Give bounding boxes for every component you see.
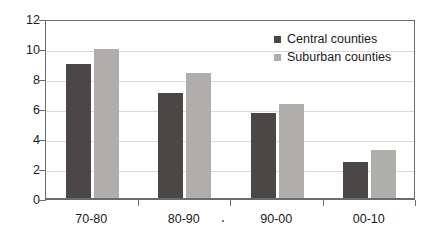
- y-axis-tick-mark: [39, 200, 46, 201]
- bar-central-00-10: [343, 162, 368, 200]
- x-axis-tick-label-80-90: 80-90: [138, 212, 231, 226]
- legend-item-central: Central counties: [274, 30, 391, 48]
- bar-central-80-90: [158, 93, 183, 199]
- y-axis-tick-mark: [39, 170, 46, 171]
- y-axis-tick-label: 4: [14, 134, 40, 146]
- bar-suburban-70-80: [94, 49, 119, 199]
- scan-artifact-dot: [222, 220, 224, 222]
- y-axis-tick-label: 8: [14, 74, 40, 86]
- x-axis-tick-mark: [323, 200, 324, 206]
- x-axis-tick-label-70-80: 70-80: [45, 212, 138, 226]
- y-axis-tick-mark: [39, 80, 46, 81]
- bar-suburban-90-00: [279, 104, 304, 199]
- y-axis: 024681012: [0, 0, 40, 239]
- y-axis-tick-label: 10: [14, 44, 40, 56]
- x-axis-tick-mark: [415, 200, 416, 206]
- bar-suburban-80-90: [186, 73, 211, 199]
- legend-label-suburban: Suburban counties: [287, 51, 391, 64]
- y-axis-tick-mark: [39, 20, 46, 21]
- bar-central-90-00: [251, 113, 276, 199]
- bar-suburban-00-10: [371, 150, 396, 199]
- y-axis-tick-label: 2: [14, 164, 40, 176]
- x-axis-tick-mark: [138, 200, 139, 206]
- legend-swatch-suburban-icon: [274, 54, 281, 61]
- chart-legend: Central counties Suburban counties: [274, 30, 391, 66]
- x-axis-baseline: [46, 198, 414, 199]
- y-axis-tick-label: 12: [14, 14, 40, 26]
- y-axis-tick-mark: [39, 50, 46, 51]
- x-axis-tick-label-00-10: 00-10: [323, 212, 416, 226]
- bar-central-70-80: [66, 64, 91, 199]
- x-axis-tick-label-90-00: 90-00: [230, 212, 323, 226]
- legend-swatch-central-icon: [274, 36, 281, 43]
- x-axis-tick-mark: [230, 200, 231, 206]
- legend-item-suburban: Suburban counties: [274, 48, 391, 66]
- bar-chart: 024681012 70-8080-9090-0000-10 Central c…: [0, 0, 433, 239]
- y-axis-tick-mark: [39, 140, 46, 141]
- legend-label-central: Central counties: [287, 33, 377, 46]
- y-axis-tick-label: 6: [14, 104, 40, 116]
- y-axis-tick-mark: [39, 110, 46, 111]
- y-axis-tick-label: 0: [14, 194, 40, 206]
